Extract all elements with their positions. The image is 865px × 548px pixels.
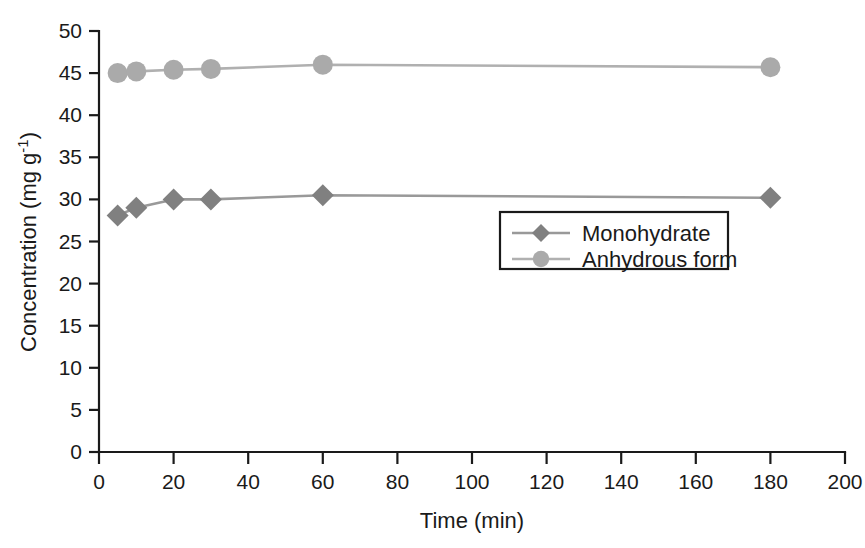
y-tick-label: 50 <box>59 19 82 42</box>
chart-figure: 05101520253035404550 0204060801001201401… <box>0 0 865 548</box>
x-tick-label: 0 <box>93 470 105 493</box>
x-tick-label: 60 <box>311 470 334 493</box>
x-tick-label: 20 <box>162 470 185 493</box>
y-tick-label: 15 <box>59 314 82 337</box>
data-point-diamond <box>200 188 222 210</box>
series-2 <box>108 55 781 83</box>
chart-legend: MonohydrateAnhydrous form <box>500 212 737 272</box>
legend-label: Anhydrous form <box>582 247 737 272</box>
y-tick-label: 35 <box>59 145 82 168</box>
y-tick-label: 45 <box>59 61 82 84</box>
data-point-diamond <box>163 188 185 210</box>
data-point-circle <box>164 60 184 80</box>
y-tick-label: 5 <box>70 398 82 421</box>
y-axis-title: Concentration (mg g-1) <box>14 132 41 352</box>
data-point-circle <box>760 57 780 77</box>
x-tick-label: 200 <box>827 470 862 493</box>
data-point-diamond <box>312 184 334 206</box>
x-axis-ticks: 020406080100120140160180200 <box>93 452 862 493</box>
x-tick-label: 40 <box>237 470 260 493</box>
y-tick-label: 20 <box>59 272 82 295</box>
axes <box>99 31 845 452</box>
x-tick-label: 120 <box>529 470 564 493</box>
line-chart: 05101520253035404550 0204060801001201401… <box>0 0 865 548</box>
data-point-circle <box>201 59 221 79</box>
data-point-diamond <box>125 197 147 219</box>
x-tick-label: 180 <box>753 470 788 493</box>
data-series-layer <box>107 55 782 227</box>
x-tick-label: 100 <box>454 470 489 493</box>
y-tick-label: 10 <box>59 356 82 379</box>
data-point-circle <box>313 55 333 75</box>
x-tick-label: 80 <box>386 470 409 493</box>
legend-label: Monohydrate <box>582 221 710 246</box>
data-point-diamond <box>759 187 781 209</box>
x-tick-label: 140 <box>604 470 639 493</box>
x-tick-label: 160 <box>678 470 713 493</box>
y-tick-label: 40 <box>59 103 82 126</box>
x-axis-title: Time (min) <box>420 508 524 533</box>
data-point-circle <box>533 251 549 267</box>
data-point-diamond <box>107 204 129 226</box>
data-point-circle <box>126 61 146 81</box>
y-tick-label: 0 <box>70 440 82 463</box>
y-axis-ticks: 05101520253035404550 <box>59 19 99 463</box>
data-point-circle <box>108 63 128 83</box>
y-tick-label: 25 <box>59 230 82 253</box>
y-tick-label: 30 <box>59 187 82 210</box>
